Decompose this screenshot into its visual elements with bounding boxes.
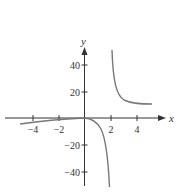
x-tick-label: −2 [54,124,65,135]
y-axis-label: y [80,35,86,47]
x-tick-label: −4 [28,124,39,135]
function-graph: x y −4 −2 2 4 40 20 −20 −40 [0,0,185,195]
x-axis-label: x [168,112,174,124]
x-tick-label: 4 [135,124,140,135]
x-tick-label: 2 [109,124,114,135]
curve-right-branch [112,50,152,104]
y-axis-arrow-icon [82,47,88,55]
y-tick-label: 40 [70,60,80,71]
y-tick-label: −20 [64,140,80,151]
y-tick-label: −40 [64,167,80,178]
y-tick-label: 20 [70,87,80,98]
x-axis-arrow-icon [158,115,166,121]
